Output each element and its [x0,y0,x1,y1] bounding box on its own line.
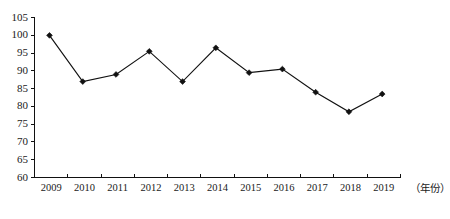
y-axis: 6065707580859095100105 [12,11,35,183]
x-axis-tick-labels: 2009201020112012201320142015201620172018… [41,182,395,193]
y-axis-tick-label: 95 [17,46,29,58]
chart-canvas: 6065707580859095100105 20092010201120122… [0,0,450,219]
x-axis-tick-label: 2012 [140,182,161,193]
x-axis-tick-label: 2011 [107,182,128,193]
series-markers [47,32,386,114]
y-axis-tick-label: 105 [12,11,29,23]
x-axis-unit-label: （年份） [410,182,450,194]
y-axis-tick-label: 85 [17,82,29,94]
x-axis-tick-label: 2016 [274,182,295,193]
y-axis-tick-label: 65 [17,153,29,165]
x-axis-tick-label: 2019 [373,182,394,193]
data-point [379,91,385,97]
x-axis: 2009201020112012201320142015201620172018… [34,174,450,195]
y-axis-tick-label: 60 [17,171,29,183]
y-axis-tick-label: 100 [12,28,29,40]
x-axis-tick-label: 2015 [240,182,261,193]
y-axis-tick-label: 90 [17,64,29,76]
x-axis-tick-label: 2018 [340,182,361,193]
y-axis-tick-label: 75 [17,117,29,129]
x-axis-tick-label: 2014 [207,182,229,193]
y-axis-tick-label: 70 [17,135,29,147]
x-axis-tick-label: 2010 [74,182,95,193]
x-axis-tick-label: 2017 [307,182,328,193]
y-axis-tick-labels: 6065707580859095100105 [12,11,29,183]
data-series [47,32,386,114]
line-chart: 6065707580859095100105 20092010201120122… [0,0,450,219]
x-axis-tick-label: 2013 [174,182,195,193]
data-point [346,109,352,115]
y-axis-tick-label: 80 [17,99,29,111]
x-axis-tick-label: 2009 [41,182,62,193]
x-axis-tick-marks [35,174,401,178]
